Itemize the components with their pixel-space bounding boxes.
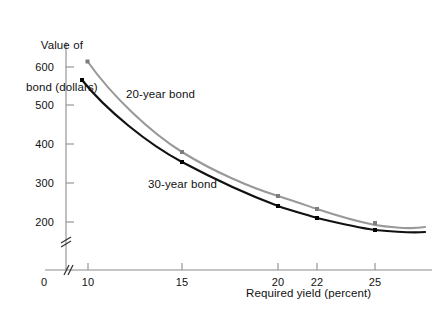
series-markers-30-year [80,78,377,232]
series-line-20-year [88,62,425,228]
y-tick-label-200: 200 [20,216,54,229]
x-tick-label-25: 25 [363,276,387,289]
x-axis-ticks [88,263,375,270]
bond-value-chart: Value of bond (dollars) Required yield (… [0,0,445,317]
y-tick-label-600: 600 [20,61,54,74]
series-annotation-30-year: 30-year bond [148,178,217,191]
x-tick-label-20: 20 [266,276,290,289]
series-markers-20-year [86,60,378,226]
series-annotation-20-year: 20-year bond [126,88,195,101]
x-tick-label-22: 22 [305,276,329,289]
y-tick-label-500: 500 [20,99,54,112]
x-tick-label-15: 15 [170,276,194,289]
x-tick-label-10: 10 [76,276,100,289]
y-tick-label-400: 400 [20,138,54,151]
y-axis-title-line2: bond (dollars) [26,80,98,94]
x-tick-label-0: 0 [32,276,56,289]
y-axis-title-line1: Value of [26,38,98,52]
series-line-30-year [82,80,425,232]
y-tick-label-300: 300 [20,177,54,190]
